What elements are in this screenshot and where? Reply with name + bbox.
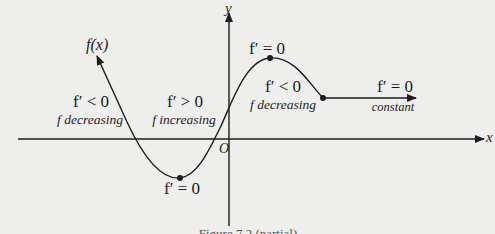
middle-region-description: f increasing (152, 113, 216, 127)
origin-label: O (219, 142, 229, 156)
minimum-label: f′ = 0 (164, 180, 200, 197)
figure-caption: Figure 7.2 (partial) (199, 227, 298, 234)
x-axis-label: x (486, 130, 493, 145)
maximum-label: f′ = 0 (249, 40, 285, 57)
left-region-condition: f′ < 0 (73, 93, 109, 110)
right-region-description: f decreasing (250, 98, 316, 112)
left-region-description: f decreasing (57, 113, 123, 127)
curve-label: f(x) (86, 37, 108, 53)
right-region-condition: f′ < 0 (265, 78, 301, 95)
y-axis-label: y (225, 1, 232, 16)
constant-region-description: constant (372, 101, 414, 114)
constant-region-condition: f′ = 0 (377, 78, 413, 95)
derivative-diagram: y x O f(x) f′ < 0 f decreasing f′ > 0 f … (0, 0, 495, 234)
middle-region-condition: f′ > 0 (167, 93, 203, 110)
constant-start-point (320, 95, 326, 101)
